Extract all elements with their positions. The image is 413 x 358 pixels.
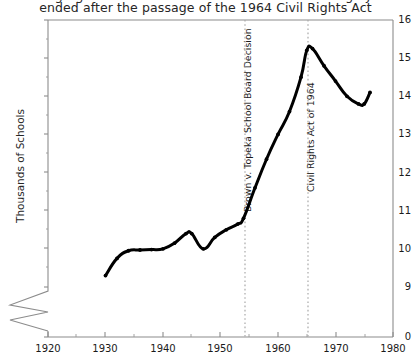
data-point-marker: [150, 248, 154, 252]
data-point-marker: [253, 186, 257, 190]
y-axis-break-zigzag: [10, 287, 48, 331]
data-point-marker: [311, 47, 315, 51]
data-series-line: [104, 46, 372, 278]
data-point-marker: [161, 247, 165, 251]
data-point-marker: [242, 216, 246, 220]
data-point-marker: [104, 274, 108, 278]
data-point-marker: [173, 241, 177, 245]
data-point-marker: [276, 133, 280, 137]
data-point-marker: [115, 256, 119, 260]
data-point-marker: [288, 110, 292, 114]
axis-frame: [48, 20, 393, 337]
data-point-marker: [190, 232, 194, 236]
data-point-marker: [334, 79, 338, 83]
y-major-ticks: [44, 20, 48, 337]
data-point-marker: [184, 232, 188, 236]
data-point-marker: [305, 49, 309, 53]
data-point-marker: [138, 248, 142, 252]
data-point-marker: [357, 102, 361, 106]
data-point-marker: [201, 247, 205, 251]
x-major-ticks: [48, 332, 393, 337]
annotation-lines: [245, 20, 308, 337]
data-point-marker: [299, 75, 303, 79]
data-point-marker: [213, 236, 217, 240]
data-point-marker: [345, 94, 349, 98]
data-point-marker: [362, 102, 366, 106]
data-point-marker: [368, 91, 372, 95]
data-point-marker: [224, 228, 228, 232]
data-point-marker: [127, 249, 131, 253]
data-point-marker: [322, 64, 326, 68]
data-point-marker: [265, 157, 269, 161]
data-point-marker: [236, 222, 240, 226]
